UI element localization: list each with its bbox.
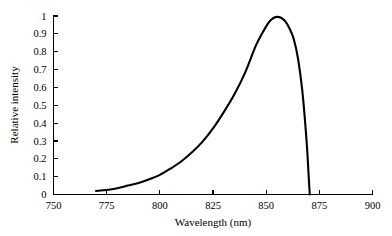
axis-lines — [54, 16, 373, 195]
x-tick-label: 900 — [365, 200, 381, 211]
y-tick-label: 0.2 — [33, 153, 46, 164]
y-tick-label: 0.3 — [33, 136, 46, 147]
x-tick-label: 825 — [205, 200, 221, 211]
y-tick-label: 0.6 — [33, 82, 46, 93]
spectrum-curve — [96, 17, 310, 195]
chart-figure: 00.10.20.30.40.50.60.70.80.91 7507758008… — [0, 0, 392, 236]
x-tick-label: 800 — [152, 200, 168, 211]
y-tick-label: 0.4 — [33, 118, 47, 129]
y-tick-label: 0.8 — [33, 46, 46, 57]
x-axis-tick-labels: 750775800825850875900 — [46, 200, 381, 211]
y-tick-label: 0.9 — [33, 28, 46, 39]
y-tick-label: 1 — [41, 11, 46, 22]
x-tick-label: 775 — [99, 200, 115, 211]
y-tick-label: 0.5 — [33, 100, 46, 111]
x-axis-title: Wavelength (nm) — [175, 216, 252, 229]
x-tick-label: 875 — [311, 200, 327, 211]
y-axis-title: Relative intensity — [8, 66, 20, 144]
y-axis-tick-labels: 00.10.20.30.40.50.60.70.80.91 — [33, 11, 47, 201]
x-tick-label: 750 — [46, 200, 62, 211]
y-tick-label: 0.1 — [33, 171, 46, 182]
emission-spectrum-plot: 00.10.20.30.40.50.60.70.80.91 7507758008… — [0, 0, 392, 236]
y-tick-label: 0 — [41, 189, 46, 200]
y-tick-label: 0.7 — [33, 64, 46, 75]
x-tick-label: 850 — [258, 200, 274, 211]
